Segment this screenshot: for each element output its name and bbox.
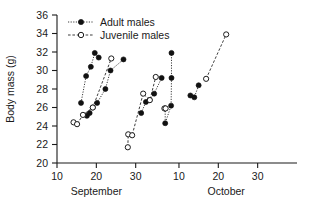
data-point [224,32,229,37]
data-point [141,91,146,96]
y-tick-label: 20 [36,157,48,169]
x-tick-label: 30 [130,170,142,182]
series-segment [206,34,226,78]
x-tick-label: 10 [51,170,63,182]
series-adult-males [79,50,202,125]
y-tick-label: 24 [36,120,48,132]
x-tick-label: 10 [173,170,185,182]
legend-label: Adult males [100,16,155,28]
data-point [139,111,144,116]
series-juvenile-males [71,32,229,150]
chart-legend: Adult malesJuvenile males [68,16,169,41]
series-segment [165,53,171,123]
data-point [169,103,174,108]
data-point [163,121,168,126]
y-tick-label: 22 [36,138,48,150]
data-point [87,111,92,116]
data-point [130,133,135,138]
y-axis: 202224262830323436 [36,9,57,169]
data-point [108,68,113,73]
y-axis-tick-labels: 202224262830323436 [36,9,48,169]
x-axis-month-labels: SeptemberOctober [71,185,246,197]
data-point [84,74,89,79]
body-mass-scatter-chart: 202224262830323436 102030102030 Septembe… [0,0,310,199]
x-axis-ticks [57,163,258,168]
data-point [192,95,197,100]
y-tick-label: 26 [36,101,48,113]
data-point [169,50,174,55]
data-point [96,55,101,60]
data-point [103,87,108,92]
data-point [95,100,100,105]
data-point [152,91,157,96]
data-point [80,112,85,117]
y-axis-ticks [52,15,57,163]
data-point [204,76,209,81]
series-segment [81,53,99,103]
x-tick-label: 30 [252,170,264,182]
data-point [159,75,164,80]
y-tick-label: 30 [36,64,48,76]
x-tick-label: 20 [212,170,224,182]
x-tick-label: 20 [91,170,103,182]
data-point [163,106,168,111]
chart-canvas: 202224262830323436 102030102030 Septembe… [0,0,310,199]
legend-label: Juvenile males [100,29,169,41]
x-axis-tick-labels: 102030102030 [51,170,263,182]
y-tick-label: 34 [36,27,48,39]
data-point [79,100,84,105]
data-point [147,98,152,103]
x-axis: 102030102030 SeptemberOctober [51,163,297,197]
data-point [92,50,97,55]
legend-open-circle-icon [78,32,83,37]
data-point [74,122,79,127]
data-series-layer [71,32,229,150]
data-point [109,56,114,61]
data-point [169,75,174,80]
data-point [88,64,93,69]
x-month-label: September [71,185,123,197]
data-point [121,57,126,62]
y-axis-title: Body mass (g) [4,55,16,123]
data-point [125,145,130,150]
y-tick-label: 28 [36,83,48,95]
data-point [196,83,201,88]
legend-filled-circle-icon [78,19,83,24]
y-tick-label: 36 [36,9,48,21]
x-month-label: October [208,185,246,197]
data-point [90,105,95,110]
y-tick-label: 32 [36,46,48,58]
data-point [153,74,158,79]
